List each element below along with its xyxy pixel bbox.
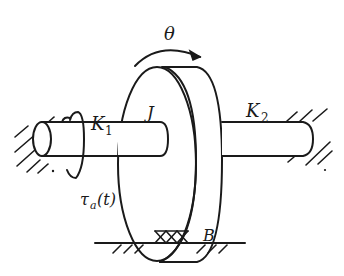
torsional-system-diagram: θ J K 1 K 2 τ a (t) B xyxy=(0,0,344,276)
svg-text:a: a xyxy=(90,199,97,212)
torque-label: τ a (t) xyxy=(80,190,116,212)
damper-label: B xyxy=(202,226,215,245)
svg-text:2: 2 xyxy=(261,111,269,125)
disk-front-face xyxy=(118,67,196,261)
svg-text:K: K xyxy=(245,100,261,121)
left-shaft-end xyxy=(33,122,51,156)
right-shaft xyxy=(222,122,313,156)
svg-text:τ: τ xyxy=(80,190,90,209)
theta-label: θ xyxy=(164,23,175,44)
svg-text:(t): (t) xyxy=(97,190,116,209)
svg-text:1: 1 xyxy=(105,124,113,138)
left-shaft-front xyxy=(118,122,168,156)
theta-rotation-arrow-icon xyxy=(135,50,200,66)
svg-text:K: K xyxy=(90,113,106,134)
